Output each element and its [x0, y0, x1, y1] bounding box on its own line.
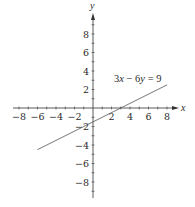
y-tick-label: 6 — [83, 47, 89, 58]
x-tick-label: −4 — [49, 111, 63, 122]
y-tick-label: −6 — [75, 158, 89, 169]
equation-label: 3x − 6y = 9 — [114, 73, 161, 84]
x-tick-label: −6 — [30, 111, 44, 122]
x-tick-label: 6 — [145, 111, 151, 122]
x-axis-arrow-icon — [172, 106, 179, 110]
y-tick-label: 4 — [83, 66, 89, 77]
y-axis-arrow-icon — [91, 13, 95, 20]
equation-char: 9 — [156, 73, 161, 84]
x-tick-label: −8 — [12, 111, 26, 122]
x-tick-label: 4 — [127, 111, 133, 122]
y-tick-label: −8 — [75, 177, 89, 188]
axes — [13, 13, 179, 198]
y-tick-label: 8 — [83, 29, 89, 40]
x-tick-label: 8 — [164, 111, 170, 122]
y-tick-label: −2 — [75, 121, 89, 132]
x-axis-label: x — [180, 102, 186, 113]
y-tick-label: 2 — [83, 84, 89, 95]
y-tick-label: −4 — [75, 140, 89, 151]
graph: −8−6−4−22468−8−6−4−22468 x y 3x − 6y = 9 — [0, 0, 195, 207]
y-axis-label: y — [89, 0, 95, 11]
